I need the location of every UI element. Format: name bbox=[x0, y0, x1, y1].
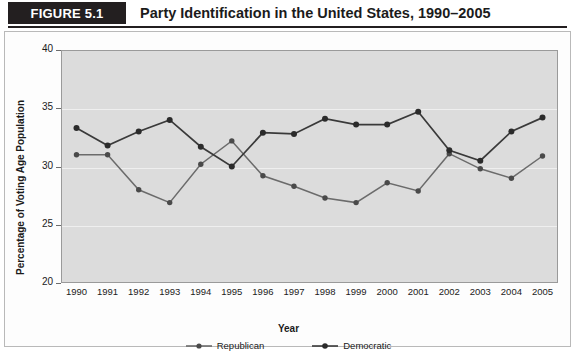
series-line bbox=[77, 141, 543, 203]
legend-item-democratic: Democratic bbox=[312, 340, 391, 351]
data-point bbox=[322, 195, 327, 200]
data-point bbox=[353, 122, 359, 128]
x-tick-label: 1997 bbox=[277, 286, 311, 297]
figure-number-badge: FIGURE 5.1 bbox=[8, 2, 126, 24]
x-tick-label: 1993 bbox=[153, 286, 187, 297]
data-series-layer bbox=[61, 50, 558, 283]
data-point bbox=[229, 138, 234, 143]
data-point bbox=[446, 147, 452, 153]
republican-line-swatch bbox=[186, 341, 212, 351]
data-point bbox=[509, 176, 514, 181]
x-tick-label: 2004 bbox=[494, 286, 528, 297]
x-tick-label: 1998 bbox=[308, 286, 342, 297]
legend-label-republican: Republican bbox=[217, 340, 265, 351]
data-point bbox=[74, 125, 80, 131]
chart-legend: Republican Democratic bbox=[5, 340, 572, 351]
header-divider bbox=[8, 26, 567, 28]
data-point bbox=[540, 153, 545, 158]
x-tick-label: 2001 bbox=[401, 286, 435, 297]
x-tick-label: 1994 bbox=[184, 286, 218, 297]
y-tick-mark bbox=[56, 283, 61, 284]
data-point bbox=[477, 158, 483, 164]
data-point bbox=[291, 184, 296, 189]
series-republican bbox=[74, 138, 545, 205]
data-point bbox=[384, 122, 390, 128]
y-tick-label: 25 bbox=[13, 218, 53, 229]
x-tick-label: 2002 bbox=[432, 286, 466, 297]
data-point bbox=[136, 129, 142, 135]
data-point bbox=[260, 130, 266, 136]
data-point bbox=[105, 152, 110, 157]
y-tick-label: 30 bbox=[13, 160, 53, 171]
data-point bbox=[260, 173, 265, 178]
data-point bbox=[291, 131, 297, 137]
data-point bbox=[167, 117, 173, 123]
x-tick-label: 1990 bbox=[60, 286, 94, 297]
figure-header: FIGURE 5.1 Party Identification in the U… bbox=[0, 0, 575, 30]
x-tick-label: 1991 bbox=[91, 286, 125, 297]
x-tick-label: 1995 bbox=[215, 286, 249, 297]
legend-label-democratic: Democratic bbox=[343, 340, 391, 351]
x-tick-label: 2003 bbox=[463, 286, 497, 297]
x-tick-label: 1999 bbox=[339, 286, 373, 297]
data-point bbox=[353, 200, 358, 205]
y-tick-label: 40 bbox=[13, 43, 53, 54]
x-tick-label: 1996 bbox=[246, 286, 280, 297]
x-axis-label: Year bbox=[5, 323, 572, 334]
series-line bbox=[77, 112, 543, 167]
data-point bbox=[385, 180, 390, 185]
data-point bbox=[415, 109, 421, 115]
data-point bbox=[136, 187, 141, 192]
democratic-line-swatch bbox=[312, 341, 338, 351]
data-point bbox=[105, 143, 111, 149]
data-point bbox=[478, 166, 483, 171]
y-tick-label: 20 bbox=[13, 276, 53, 287]
data-point bbox=[198, 144, 204, 150]
x-tick-label: 2005 bbox=[525, 286, 559, 297]
chart: Percentage of Voting Age Population Year… bbox=[5, 32, 572, 348]
data-point bbox=[416, 188, 421, 193]
figure-container: FIGURE 5.1 Party Identification in the U… bbox=[0, 0, 575, 351]
data-point bbox=[74, 152, 79, 157]
data-point bbox=[229, 164, 235, 170]
data-point bbox=[540, 115, 546, 121]
series-democratic bbox=[74, 109, 546, 170]
data-point bbox=[508, 129, 514, 135]
y-tick-label: 35 bbox=[13, 101, 53, 112]
data-point bbox=[322, 116, 328, 122]
figure-title: Party Identification in the United State… bbox=[140, 2, 491, 24]
chart-panel: Percentage of Voting Age Population Year… bbox=[4, 31, 571, 347]
data-point bbox=[198, 162, 203, 167]
y-axis-label: Percentage of Voting Age Population bbox=[15, 88, 26, 288]
legend-item-republican: Republican bbox=[186, 340, 265, 351]
x-tick-label: 2000 bbox=[370, 286, 404, 297]
data-point bbox=[167, 200, 172, 205]
x-tick-label: 1992 bbox=[122, 286, 156, 297]
